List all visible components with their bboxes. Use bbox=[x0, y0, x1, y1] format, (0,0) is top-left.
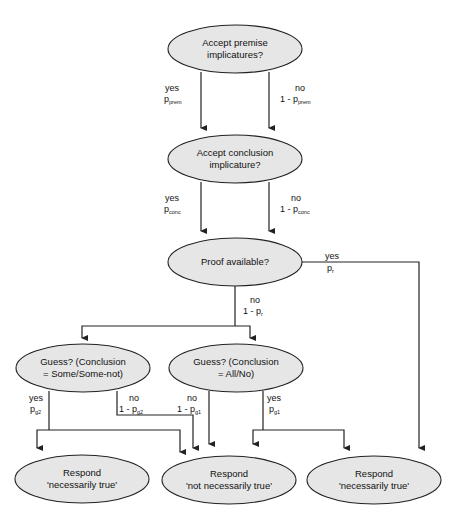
node-premise: Accept premise implicatures? bbox=[168, 25, 302, 73]
label-premise-yes-prob: pprem bbox=[164, 94, 182, 105]
node-guess-all: Guess? (Conclusion = All/No) bbox=[169, 344, 303, 392]
resp-right-line1: Respond bbox=[355, 468, 393, 479]
label-g2-no-prob: 1 - pg2 bbox=[119, 404, 143, 415]
resp-right-line2: 'necessarily true' bbox=[339, 480, 409, 491]
edge-split-to-guess-all bbox=[235, 326, 250, 338]
label-g1-yes: yes bbox=[267, 393, 282, 403]
label-g1-no: no bbox=[187, 393, 197, 403]
node-respond-necessarily-true-left: Respond 'necessarily true' bbox=[15, 455, 149, 503]
node-guess-all-line2: = All/No) bbox=[218, 368, 254, 379]
label-conclusion-no: no bbox=[291, 193, 301, 203]
label-conclusion-no-prob: 1 - pconc bbox=[280, 204, 310, 215]
edge-g2-yes-right bbox=[49, 430, 180, 452]
label-proof-no: no bbox=[250, 295, 260, 305]
edge-split-to-guess-some bbox=[82, 326, 235, 338]
edge-g1-yes-right bbox=[263, 430, 344, 448]
resp-middle-line2: 'not necessarily true' bbox=[186, 480, 272, 491]
processing-tree-diagram: Accept premise implicatures? Accept conc… bbox=[0, 0, 456, 517]
label-proof-no-prob: 1 - pr bbox=[243, 306, 263, 317]
node-proof: Proof available? bbox=[168, 238, 302, 286]
label-g1-no-prob: 1 - pg1 bbox=[177, 404, 201, 415]
label-premise-yes: yes bbox=[165, 83, 180, 93]
node-conclusion: Accept conclusion implicature? bbox=[168, 135, 302, 183]
node-respond-necessarily-true-right: Respond 'necessarily true' bbox=[307, 456, 441, 504]
node-premise-line2: implicatures? bbox=[207, 49, 263, 60]
node-guess-some: Guess? (Conclusion = Some/Some-not) bbox=[16, 344, 150, 392]
node-proof-line1: Proof available? bbox=[201, 256, 269, 267]
label-premise-no: no bbox=[295, 83, 305, 93]
resp-left-line1: Respond bbox=[63, 467, 101, 478]
label-g2-yes-prob: pg2 bbox=[30, 404, 41, 415]
node-guess-some-line1: Guess? (Conclusion bbox=[40, 356, 126, 367]
resp-middle-line1: Respond bbox=[210, 468, 248, 479]
label-proof-yes-prob: pr bbox=[327, 263, 334, 274]
label-conclusion-yes: yes bbox=[165, 193, 180, 203]
edge-g2-yes-left bbox=[37, 430, 49, 448]
edge-proof-yes bbox=[302, 262, 419, 448]
resp-left-line2: 'necessarily true' bbox=[47, 479, 117, 490]
label-premise-no-prob: 1 - pprem bbox=[280, 94, 311, 105]
label-proof-yes: yes bbox=[325, 251, 340, 261]
node-conclusion-line1: Accept conclusion bbox=[197, 147, 274, 158]
edge-g1-yes-left bbox=[253, 430, 263, 444]
label-g1-yes-prob: pg1 bbox=[269, 404, 280, 415]
label-conclusion-yes-prob: pconc bbox=[164, 204, 181, 215]
label-g2-no: no bbox=[129, 393, 139, 403]
label-g2-yes: yes bbox=[29, 393, 44, 403]
node-guess-all-line1: Guess? (Conclusion bbox=[193, 356, 279, 367]
node-conclusion-line2: implicature? bbox=[209, 159, 260, 170]
node-guess-some-line2: = Some/Some-not) bbox=[43, 368, 123, 379]
node-respond-not-necessarily-true: Respond 'not necessarily true' bbox=[162, 456, 296, 504]
node-premise-line1: Accept premise bbox=[202, 37, 267, 48]
